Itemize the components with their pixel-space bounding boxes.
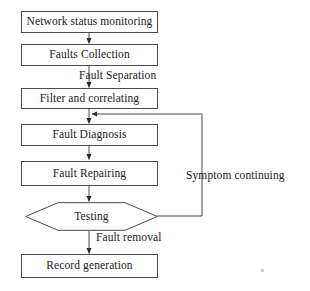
node-testing[interactable]: Testing <box>25 202 158 231</box>
node-record-generation[interactable]: Record generation <box>21 254 158 278</box>
scan-artifact <box>261 269 264 272</box>
node-fault-diagnosis[interactable]: Fault Diagnosis <box>21 124 158 146</box>
edge-label-fault-separation: Fault Separation <box>79 70 156 82</box>
edge-label-symptom-continuing: Symptom continuing <box>186 170 285 182</box>
node-label: Fault Repairing <box>53 168 126 180</box>
node-network-status-monitoring[interactable]: Network status monitoring <box>21 11 158 33</box>
diamond-shape <box>25 202 158 231</box>
node-label: Filter and correlating <box>40 93 139 105</box>
flowchart-canvas: Network status monitoring Faults Collect… <box>0 0 310 291</box>
node-filter-and-correlating[interactable]: Filter and correlating <box>21 88 158 109</box>
edge-label-fault-removal: Fault removal <box>96 232 162 244</box>
node-label: Faults Collection <box>49 49 130 61</box>
node-faults-collection[interactable]: Faults Collection <box>21 44 158 66</box>
node-label: Network status monitoring <box>27 16 153 28</box>
node-fault-repairing[interactable]: Fault Repairing <box>21 161 158 186</box>
node-label: Record generation <box>46 260 132 272</box>
node-label: Fault Diagnosis <box>52 129 126 141</box>
